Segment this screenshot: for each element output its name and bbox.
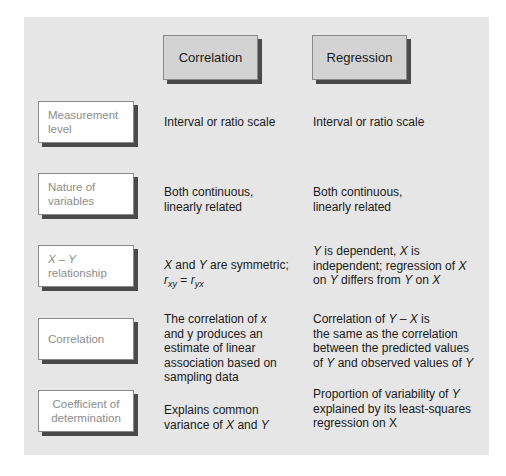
var-y: Y (261, 418, 269, 432)
cell-text: and (172, 258, 199, 272)
row-label-correlation: Correlation (38, 318, 134, 360)
var-x: X (164, 258, 172, 272)
cell-text: Interval or ratio scale (164, 115, 275, 129)
cell-text: are symmetric; (207, 258, 289, 272)
row-label-xy-relationship: X – Yrelationship (38, 245, 134, 287)
row-label-text: Nature of (48, 181, 95, 193)
cell-text: Interval or ratio scale (313, 115, 424, 129)
var-x: X (410, 312, 418, 326)
var-y: Y (330, 273, 338, 287)
cell-text: the same as the correlation (313, 327, 458, 341)
var-x: X (400, 244, 408, 258)
cell-text: is (408, 244, 420, 258)
cell-text: and (234, 418, 261, 432)
cell-text: The correlation of (164, 312, 261, 326)
cell-text: variance of (164, 418, 226, 432)
cell-text: and y produces an (164, 327, 263, 341)
cell-regression-nature: Both continuous, linearly related (313, 185, 485, 214)
column-header-correlation-label: Correlation (179, 50, 243, 65)
cell-text: Explains common (164, 403, 259, 417)
cell-text: linearly related (313, 200, 391, 214)
cell-correlation-nature: Both continuous, linearly related (164, 185, 304, 214)
var-y: Y (465, 356, 473, 370)
cell-regression-coefficient: Proportion of variability of Y explained… (313, 387, 485, 431)
cell-text: linearly related (164, 200, 242, 214)
var-x: X (226, 418, 234, 432)
var-x: X (432, 273, 440, 287)
row-label-coefficient-of-determination: Coefficient ofdetermination (38, 390, 134, 432)
column-header-regression: Regression (312, 35, 407, 80)
cell-correlation-measurement: Interval or ratio scale (164, 115, 304, 130)
cell-text: Proportion of variability of (313, 387, 452, 401)
cell-text: Correlation of (313, 312, 388, 326)
var-y: Y (452, 387, 460, 401)
cell-text: regression on X (313, 416, 397, 430)
cell-correlation-coefficient: Explains common variance of X and Y (164, 403, 304, 432)
cell-text: association based on (164, 356, 277, 370)
cell-regression-measurement: Interval or ratio scale (313, 115, 485, 130)
row-label-text: Correlation (48, 332, 104, 346)
cell-text: on (313, 273, 330, 287)
row-label-text: variables (48, 195, 94, 207)
cell-text: is (418, 312, 430, 326)
row-label-text: X – Y (48, 253, 76, 265)
cell-correlation-xy: X and Y are symmetric; rxy = ryx (164, 258, 304, 291)
cell-text: and observed values of (334, 356, 465, 370)
row-label-text: Measurement (48, 109, 118, 121)
cell-text: explained by its least-squares (313, 402, 471, 416)
var-x: x (261, 312, 267, 326)
cell-text: estimate of linear (164, 341, 255, 355)
row-label-text: relationship (48, 267, 107, 279)
subscript-xy: xy (168, 279, 177, 289)
cell-text: differs from (338, 273, 404, 287)
cell-text: Both continuous, (164, 185, 253, 199)
var-y: Y (199, 258, 207, 272)
var-x: X (458, 259, 466, 273)
cell-text: of (313, 356, 326, 370)
var-y: Y (404, 273, 412, 287)
dash: – (396, 312, 409, 326)
row-label-text: determination (51, 412, 121, 424)
cell-text: is dependent, (321, 244, 400, 258)
row-label-text: Coefficient of (53, 398, 120, 410)
subscript-yx: yx (195, 279, 204, 289)
cell-correlation-correlation: The correlation of x and y produces an e… (164, 312, 304, 385)
row-label-measurement-level: Measurementlevel (38, 101, 134, 143)
cell-regression-correlation: Correlation of Y – X is the same as the … (313, 312, 485, 370)
column-header-correlation: Correlation (163, 35, 258, 80)
column-header-regression-label: Regression (327, 50, 393, 65)
var-y: Y (313, 244, 321, 258)
cell-text: sampling data (164, 370, 239, 384)
row-label-nature-of-variables: Nature ofvariables (38, 173, 134, 215)
cell-regression-xy: Y is dependent, X is independent; regres… (313, 244, 485, 288)
cell-text: Both continuous, (313, 185, 402, 199)
cell-text: independent; regression of (313, 259, 458, 273)
cell-text: on (412, 273, 432, 287)
equals-sign: = (177, 273, 191, 287)
cell-text: between the predicted values (313, 341, 469, 355)
row-label-text: level (48, 123, 72, 135)
